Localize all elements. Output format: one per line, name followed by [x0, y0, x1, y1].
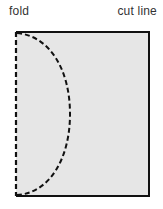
paper-diagram: [0, 0, 163, 209]
paper-sheet: [16, 32, 149, 196]
